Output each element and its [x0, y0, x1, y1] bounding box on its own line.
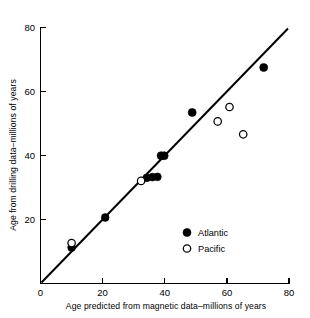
legend-label-atlantic: Atlantic [198, 228, 229, 238]
x-tick-label-0: 0 [38, 287, 43, 298]
data-point-atlantic [101, 214, 109, 222]
legend-label-pacific: Pacific [198, 244, 225, 254]
x-axis-title: Age predicted from magnetic data–million… [66, 301, 266, 311]
x-tick-label-80: 80 [284, 287, 295, 298]
legend-marker-pacific [183, 245, 190, 252]
y-tick-label-80: 80 [24, 22, 35, 33]
y-axis-title: Age from drilling data–millions of years [8, 79, 18, 231]
x-tick-label-40: 40 [160, 287, 171, 298]
x-tick-marks [103, 278, 289, 284]
data-point-atlantic [260, 64, 268, 72]
x-tick-label-60: 60 [222, 287, 233, 298]
y-tick-label-20: 20 [24, 214, 35, 225]
x-tick-labels: 0 20 40 60 80 [38, 287, 294, 298]
y-tick-label-60: 60 [24, 86, 35, 97]
data-point-pacific [240, 131, 247, 138]
data-point-atlantic [188, 108, 196, 116]
scatter-chart-figure: 80 60 40 20 0 20 40 60 80 Age predicted … [0, 0, 310, 318]
x-tick-label-20: 20 [97, 287, 108, 298]
y-tick-marks [41, 28, 47, 220]
data-point-atlantic [154, 173, 162, 181]
data-point-pacific [226, 103, 233, 110]
data-point-pacific [68, 239, 75, 246]
chart-legend: Atlantic Pacific [183, 228, 229, 254]
data-point-pacific [214, 118, 221, 125]
chart-canvas: 80 60 40 20 0 20 40 60 80 Age predicted … [0, 0, 310, 318]
legend-marker-atlantic [183, 229, 191, 237]
y-tick-labels: 80 60 40 20 [24, 22, 35, 225]
y-tick-label-40: 40 [24, 150, 35, 161]
data-point-atlantic [160, 152, 168, 160]
data-point-pacific [137, 177, 144, 184]
